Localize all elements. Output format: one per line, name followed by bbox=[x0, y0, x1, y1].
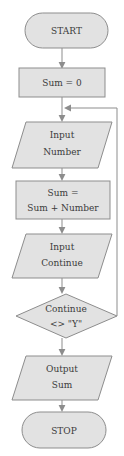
node-decision-label-line1: Continue bbox=[45, 304, 87, 314]
node-stop[interactable]: STOP bbox=[22, 412, 106, 448]
node-input-continue-label-line2: Continue bbox=[41, 258, 83, 268]
node-stop-label: STOP bbox=[51, 426, 77, 436]
node-decision-label-line2: <> "Y" bbox=[50, 319, 82, 329]
edge-decision-to-output-sum bbox=[59, 338, 66, 356]
node-input-number-label-line1: Input bbox=[50, 130, 75, 140]
node-start[interactable]: START bbox=[25, 13, 108, 48]
edge-init-sum-to-input-number bbox=[59, 97, 66, 122]
node-input-continue-label-line1: Input bbox=[50, 242, 75, 252]
flowchart-svg: START Sum = 0 Input Number Sum = Sum + N… bbox=[0, 0, 124, 456]
node-decision[interactable]: Continue <> "Y" bbox=[16, 294, 117, 338]
node-input-continue[interactable]: Input Continue bbox=[12, 234, 112, 278]
edge-accumulate-to-input-continue bbox=[59, 219, 66, 234]
node-accumulate[interactable]: Sum = Sum + Number bbox=[16, 181, 110, 219]
node-accumulate-label-line1: Sum = bbox=[48, 188, 79, 198]
edge-input-continue-to-decision bbox=[59, 278, 66, 294]
node-output-sum-label-line2: Sum bbox=[52, 380, 73, 390]
edge-input-number-to-accumulate bbox=[59, 168, 66, 181]
edge-start-to-init-sum bbox=[59, 48, 66, 69]
node-output-sum[interactable]: Output Sum bbox=[12, 356, 112, 400]
node-init-sum-label: Sum = 0 bbox=[42, 78, 82, 88]
node-init-sum[interactable]: Sum = 0 bbox=[19, 68, 105, 97]
node-input-number[interactable]: Input Number bbox=[12, 122, 112, 168]
node-start-label: START bbox=[51, 26, 82, 36]
node-input-number-label-line2: Number bbox=[43, 147, 81, 157]
flowchart-canvas: START Sum = 0 Input Number Sum = Sum + N… bbox=[0, 0, 124, 456]
node-accumulate-label-line2: Sum + Number bbox=[27, 203, 99, 213]
edge-output-sum-to-stop bbox=[59, 400, 66, 412]
node-output-sum-label-line1: Output bbox=[46, 364, 78, 374]
